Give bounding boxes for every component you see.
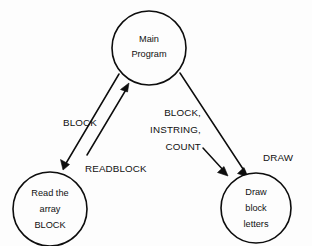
- node-main-program[interactable]: Main Program: [112, 11, 186, 85]
- edge-main-to-draw-params: [203, 148, 228, 176]
- node-draw-block-letters-label-line3: letters: [243, 219, 268, 229]
- node-read-block[interactable]: Read the array BLOCK: [13, 172, 87, 246]
- node-main-program-label-line2: Program: [131, 49, 167, 59]
- node-main-program-label-line1: Main: [139, 34, 159, 44]
- node-draw-block-letters-label-line2: block: [245, 203, 267, 213]
- edge-label-params-line3: COUNT: [165, 141, 201, 152]
- node-read-block-label-line2: array: [40, 204, 61, 214]
- structure-chart-svg: Main Program Read the array BLOCK Draw b…: [0, 0, 312, 246]
- node-draw-block-letters-label-line1: Draw: [245, 187, 267, 197]
- edge-main-to-draw-params-arrowhead: [218, 167, 229, 177]
- diagram-canvas: Main Program Read the array BLOCK Draw b…: [0, 0, 312, 246]
- edge-label-draw: DRAW: [263, 152, 294, 163]
- edge-read-to-main-arrowhead: [121, 83, 130, 92]
- edge-label-block: BLOCK: [63, 117, 97, 128]
- node-draw-block-letters[interactable]: Draw block letters: [221, 173, 291, 243]
- edge-label-readblock: READBLOCK: [85, 163, 147, 174]
- edge-label-params-line2: INSTRING,: [150, 124, 201, 135]
- edge-main-to-draw-line: [180, 73, 245, 172]
- edge-label-params-line1: BLOCK,: [164, 107, 201, 118]
- node-main-program-circle[interactable]: [112, 11, 186, 85]
- node-read-block-label-line3: BLOCK: [34, 220, 66, 230]
- node-read-block-label-line1: Read the: [31, 188, 68, 198]
